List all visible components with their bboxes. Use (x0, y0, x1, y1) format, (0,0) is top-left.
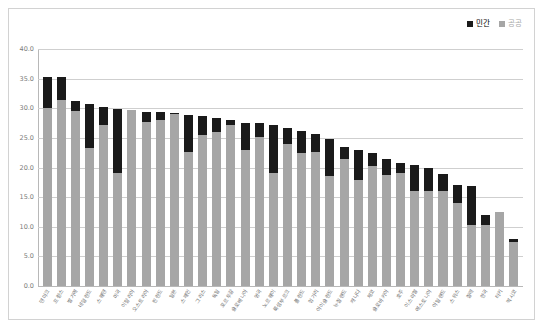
stacked-bar[interactable] (382, 159, 391, 286)
bar-column[interactable] (365, 49, 379, 286)
stacked-bar[interactable] (410, 165, 419, 286)
x-tick-label: 독일 (211, 289, 221, 300)
bar-segment-private (255, 123, 264, 137)
stacked-bar[interactable] (170, 113, 179, 286)
bar-column[interactable] (309, 49, 323, 286)
bar-column[interactable] (139, 49, 153, 286)
stacked-bar[interactable] (127, 110, 136, 286)
bar-column[interactable] (408, 49, 422, 286)
bar-column[interactable] (323, 49, 337, 286)
bar-column[interactable] (153, 49, 167, 286)
x-tick-label: 핀란드 (152, 289, 165, 304)
x-label-column: 미국 (111, 287, 125, 330)
bar-segment-public (424, 191, 433, 286)
stacked-bar[interactable] (113, 109, 122, 286)
bar-column[interactable] (238, 49, 252, 286)
stacked-bar[interactable] (184, 115, 193, 286)
bar-segment-private (283, 128, 292, 143)
bar-column[interactable] (351, 49, 365, 286)
stacked-bar[interactable] (424, 168, 433, 286)
stacked-bar[interactable] (241, 123, 250, 286)
stacked-bar[interactable] (226, 120, 235, 286)
bar-column[interactable] (210, 49, 224, 286)
bar-segment-public (453, 203, 462, 286)
bar-segment-public (382, 175, 391, 286)
bar-column[interactable] (111, 49, 125, 286)
stacked-bar[interactable] (495, 212, 504, 286)
bar-column[interactable] (196, 49, 210, 286)
stacked-bar[interactable] (71, 101, 80, 286)
stacked-bar[interactable] (481, 215, 490, 286)
stacked-bar[interactable] (297, 131, 306, 286)
stacked-bar[interactable] (509, 239, 518, 286)
bar-segment-public (495, 212, 504, 286)
bar-column[interactable] (97, 49, 111, 286)
bar-segment-public (170, 114, 179, 286)
bar-column[interactable] (394, 49, 408, 286)
bar-column[interactable] (280, 49, 294, 286)
bar-column[interactable] (422, 49, 436, 286)
bar-column[interactable] (337, 49, 351, 286)
bar-column[interactable] (54, 49, 68, 286)
bar-segment-public (340, 159, 349, 286)
stacked-bar[interactable] (57, 77, 66, 286)
stacked-bar[interactable] (212, 118, 221, 286)
bar-column[interactable] (252, 49, 266, 286)
x-tick-label: 칠레 (466, 289, 476, 300)
x-label-column: 덴마크 (40, 287, 54, 330)
bar-column[interactable] (464, 49, 478, 286)
stacked-bar[interactable] (396, 163, 405, 286)
bar-column[interactable] (266, 49, 280, 286)
bar-column[interactable] (379, 49, 393, 286)
stacked-bar[interactable] (368, 153, 377, 286)
bar-column[interactable] (507, 49, 521, 286)
bar-column[interactable] (436, 49, 450, 286)
bar-segment-private (269, 125, 278, 174)
stacked-bar[interactable] (255, 123, 264, 286)
bar-column[interactable] (295, 49, 309, 286)
stacked-bar[interactable] (43, 77, 52, 286)
bar-segment-public (509, 242, 518, 286)
stacked-bar[interactable] (354, 150, 363, 286)
bar-column[interactable] (68, 49, 82, 286)
stacked-bar[interactable] (340, 147, 349, 286)
x-tick-label: 미국 (112, 289, 122, 300)
bar-column[interactable] (82, 49, 96, 286)
bar-segment-public (241, 150, 250, 286)
bar-column[interactable] (40, 49, 54, 286)
bar-segment-private (410, 165, 419, 192)
stacked-bar[interactable] (283, 128, 292, 286)
bar-column[interactable] (181, 49, 195, 286)
stacked-bar[interactable] (198, 116, 207, 286)
stacked-bar[interactable] (85, 104, 94, 286)
bar-segment-public (142, 122, 151, 286)
stacked-bar[interactable] (142, 112, 151, 286)
bar-segment-private (340, 147, 349, 159)
bar-column[interactable] (478, 49, 492, 286)
x-label-column: 터키 (493, 287, 507, 330)
bar-segment-public (396, 173, 405, 286)
x-label-column: 슬로바키아 (379, 287, 393, 330)
bar-column[interactable] (493, 49, 507, 286)
bar-segment-private (354, 150, 363, 180)
stacked-bar[interactable] (156, 112, 165, 286)
stacked-bar[interactable] (325, 139, 334, 286)
x-label-column: 스위스 (450, 287, 464, 330)
stacked-bar[interactable] (453, 185, 462, 286)
stacked-bar[interactable] (311, 134, 320, 286)
x-axis-labels: 덴마크프랑스벨기에네덜란드스웨덴미국이탈리아오스트리아핀란드일본스페인그리스독일… (38, 287, 523, 330)
stacked-bar[interactable] (99, 107, 108, 286)
stacked-bar[interactable] (269, 125, 278, 286)
stacked-bar[interactable] (467, 186, 476, 286)
x-label-column: 슬로베니아 (238, 287, 252, 330)
y-tick-label: 20.0 (20, 164, 34, 172)
bar-column[interactable] (450, 49, 464, 286)
bar-segment-public (283, 144, 292, 286)
y-tick-label: 30.0 (20, 104, 34, 112)
bar-column[interactable] (224, 49, 238, 286)
stacked-bar[interactable] (438, 174, 447, 286)
y-tick-label: 5.0 (24, 252, 34, 260)
x-label-column: 캐나다 (351, 287, 365, 330)
bar-column[interactable] (125, 49, 139, 286)
bar-column[interactable] (167, 49, 181, 286)
